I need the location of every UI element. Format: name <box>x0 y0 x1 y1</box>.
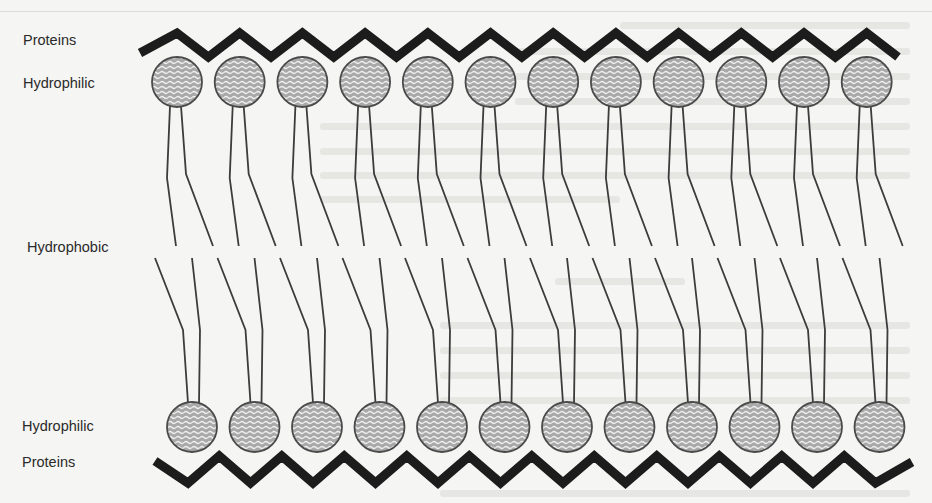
tail-left <box>468 258 501 403</box>
phospholipid-head <box>667 402 717 452</box>
tail-right <box>317 258 325 403</box>
tail-right <box>192 258 200 403</box>
phospholipid-head <box>215 57 265 107</box>
phospholipid-head <box>779 57 829 107</box>
tail-right <box>306 106 338 246</box>
tail-right <box>683 106 715 246</box>
tail-left <box>167 106 176 246</box>
top-hydrophilic-heads <box>152 57 892 107</box>
phospholipid-head <box>277 57 327 107</box>
bottom-protein-band <box>155 456 912 483</box>
tail-left <box>418 106 427 246</box>
phospholipid-head <box>480 402 530 452</box>
tail-right <box>495 106 527 246</box>
tail-left <box>155 258 188 403</box>
label-bottom-proteins: Proteins <box>22 455 75 470</box>
phospholipid-head <box>466 57 516 107</box>
tail-right <box>871 106 903 246</box>
tail-right <box>880 258 888 403</box>
top-lipid-tails <box>167 106 903 246</box>
tail-right <box>620 106 652 246</box>
phospholipid-head <box>605 402 655 452</box>
phospholipid-head <box>292 402 342 452</box>
bottom-hydrophilic-heads <box>167 402 905 452</box>
tail-right <box>244 106 276 246</box>
protein-zigzag <box>155 456 912 483</box>
phospholipid-head <box>417 402 467 452</box>
phospholipid-head <box>152 57 202 107</box>
bilayer-svg <box>0 0 932 503</box>
phospholipid-head <box>542 402 592 452</box>
phospholipid-head <box>230 402 280 452</box>
tail-left <box>343 258 376 403</box>
label-top-proteins: Proteins <box>23 33 76 48</box>
tail-left <box>606 106 615 246</box>
phospholipid-head <box>340 57 390 107</box>
tail-left <box>481 106 490 246</box>
phospholipid-head <box>403 57 453 107</box>
tail-right <box>255 258 263 403</box>
label-bottom-hydrophilic: Hydrophilic <box>22 419 94 434</box>
tail-right <box>567 258 575 403</box>
tail-left <box>593 258 626 403</box>
tail-right <box>380 258 388 403</box>
tail-right <box>808 106 840 246</box>
top-protein-band <box>140 33 898 57</box>
label-top-hydrophilic: Hydrophilic <box>23 76 95 91</box>
tail-right <box>432 106 464 246</box>
tail-right <box>442 258 450 403</box>
tail-right <box>181 106 213 246</box>
tail-left <box>405 258 438 403</box>
tail-left <box>230 106 239 246</box>
tail-left <box>718 258 751 403</box>
membrane-diagram: Proteins Hydrophilic Hydrophobic Hydroph… <box>0 0 932 503</box>
tail-left <box>731 106 740 246</box>
tail-left <box>218 258 251 403</box>
tail-right <box>745 106 777 246</box>
phospholipid-head <box>591 57 641 107</box>
phospholipid-head <box>716 57 766 107</box>
phospholipid-head <box>792 402 842 452</box>
phospholipid-head <box>842 57 892 107</box>
tail-right <box>369 106 401 246</box>
protein-zigzag <box>140 33 898 57</box>
tail-left <box>794 106 803 246</box>
label-hydrophobic: Hydrophobic <box>27 240 108 255</box>
tail-left <box>543 106 552 246</box>
tail-left <box>780 258 813 403</box>
tail-left <box>669 106 678 246</box>
tail-right <box>692 258 700 403</box>
tail-right <box>505 258 513 403</box>
tail-left <box>530 258 563 403</box>
phospholipid-head <box>528 57 578 107</box>
phospholipid-head <box>355 402 405 452</box>
tail-right <box>630 258 638 403</box>
phospholipid-head <box>855 402 905 452</box>
tail-left <box>280 258 313 403</box>
phospholipid-head <box>654 57 704 107</box>
tail-right <box>755 258 763 403</box>
tail-right <box>557 106 589 246</box>
tail-left <box>292 106 301 246</box>
tail-left <box>857 106 866 246</box>
tail-left <box>355 106 364 246</box>
tail-right <box>817 258 825 403</box>
phospholipid-head <box>730 402 780 452</box>
bottom-lipid-tails <box>155 258 888 403</box>
tail-left <box>655 258 688 403</box>
phospholipid-head <box>167 402 217 452</box>
tail-left <box>843 258 876 403</box>
